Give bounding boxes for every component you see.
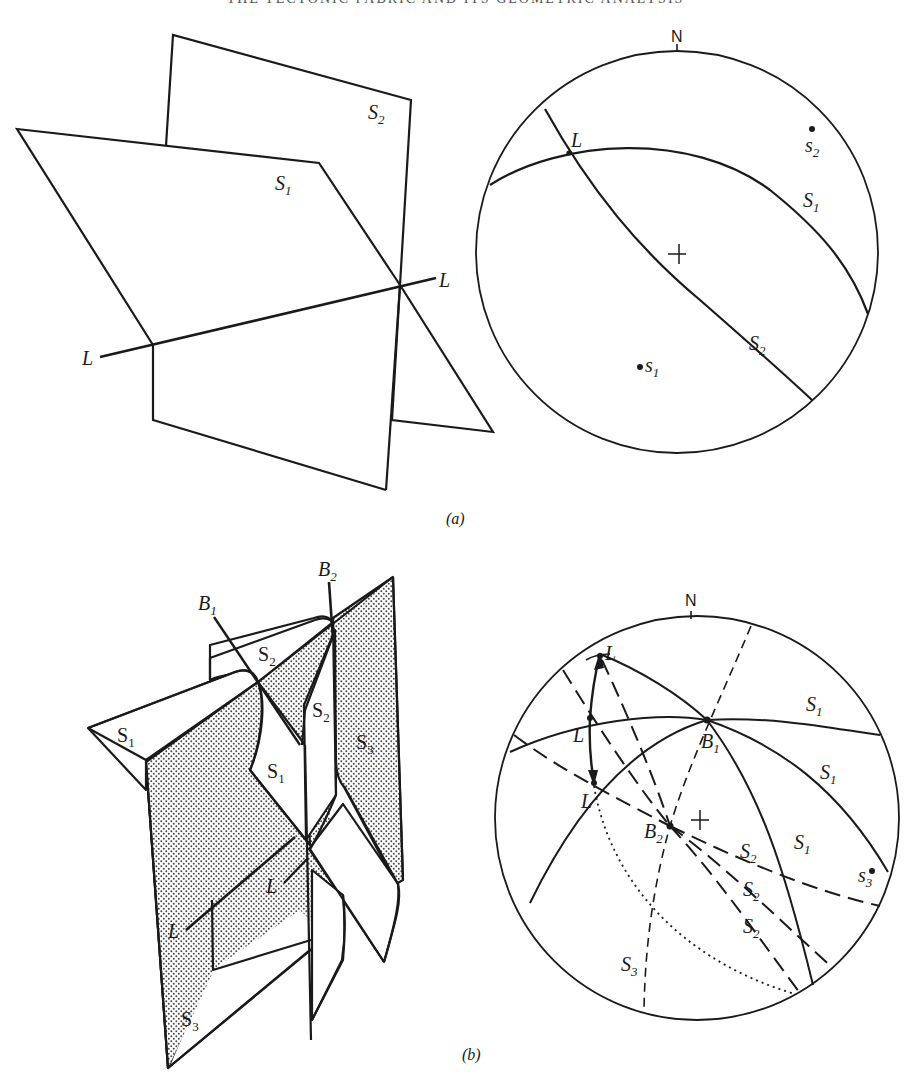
pole-s1-icon	[637, 364, 643, 370]
plane-s1-outline	[17, 129, 400, 345]
label-l-middle: L	[572, 724, 584, 746]
plane-s2-outline	[166, 35, 493, 432]
label-s3: S3	[621, 953, 638, 979]
label-l: L	[570, 129, 582, 151]
pole-s2-icon	[809, 126, 815, 132]
north-label: N	[685, 592, 697, 609]
label-s2: S2	[368, 101, 385, 127]
primitive-circle	[495, 616, 899, 1020]
label-s1: S1	[275, 172, 292, 198]
label-l-right: L	[438, 269, 450, 291]
label-l-left: L	[167, 920, 179, 942]
point-l-middle	[587, 715, 593, 721]
great-circle-s2-1	[670, 826, 880, 906]
label-s1-right: S1	[820, 761, 837, 787]
label-s1-lower: S1	[794, 831, 811, 857]
label-great-circle-s1: S1	[803, 189, 820, 215]
plane-s2-lower	[153, 345, 386, 490]
label-b2: B2	[318, 558, 337, 584]
figure-b-block-diagram	[88, 577, 403, 1068]
point-b1	[704, 717, 711, 724]
figure-b-stereonet-labels: N L L L B1 B2 S1 S1 S1 S2 S2 S2 S3 s3	[572, 592, 873, 979]
figure-a-stereonet	[476, 44, 878, 453]
label-pole-s3: s3	[858, 864, 873, 890]
caption-a: (a)	[446, 510, 465, 528]
figure-a-block-diagram	[17, 35, 493, 490]
caption-b: (b)	[462, 1046, 481, 1064]
label-l-top: L	[604, 642, 616, 664]
label-s2-2: S2	[743, 878, 760, 904]
great-circle-s1-1	[510, 717, 880, 752]
point-b2	[667, 823, 674, 830]
great-circle-s1	[490, 148, 868, 314]
label-s1-top: S1	[806, 693, 823, 719]
lineation-l	[100, 278, 436, 357]
label-b1: B1	[198, 592, 217, 618]
label-pole-s1: s1	[645, 354, 659, 380]
center-cross-icon	[668, 244, 686, 264]
label-b2: B2	[644, 820, 663, 846]
figure-b-stereonet	[495, 611, 899, 1020]
intersection-point-l	[566, 150, 571, 155]
great-circle-arc-lower	[530, 720, 707, 903]
point-l-bottom	[591, 780, 597, 786]
label-great-circle-s2: S2	[749, 332, 766, 358]
primitive-circle	[476, 51, 878, 453]
label-pole-s2: s2	[805, 134, 820, 160]
label-l-left: L	[81, 347, 93, 369]
label-l-bottom: L	[580, 790, 592, 812]
center-cross-icon	[691, 810, 709, 830]
pole-s3-icon	[869, 868, 875, 874]
figure-a-block-labels: S2 S1 L L	[81, 101, 450, 369]
great-circle-s2-3	[670, 826, 800, 993]
label-l-right: L	[265, 875, 277, 897]
point-l-top	[597, 653, 603, 659]
label-s2-3: S2	[743, 915, 760, 941]
north-label: N	[671, 28, 683, 45]
